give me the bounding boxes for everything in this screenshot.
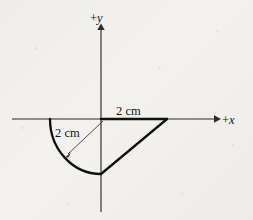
x-axis-label-sign: + (222, 113, 229, 127)
diagonal-chord (101, 119, 167, 174)
x-axis-label-var: x (228, 113, 235, 127)
y-axis-label-var: y (95, 11, 103, 25)
radius-dimension-arrowhead (64, 152, 73, 158)
x-axis-label: +x (222, 113, 235, 127)
y-axis-label-sign: + (90, 11, 97, 25)
top-dimension-label: 2 cm (116, 104, 141, 118)
radius-dimension-label: 2 cm (55, 126, 80, 140)
geometry-diagram: 2 cm 2 cm +x +y (0, 0, 253, 220)
x-axis-arrowhead (214, 115, 221, 123)
y-axis-label: +y (90, 11, 103, 25)
figure-canvas: 2 cm 2 cm +x +y (0, 0, 253, 220)
